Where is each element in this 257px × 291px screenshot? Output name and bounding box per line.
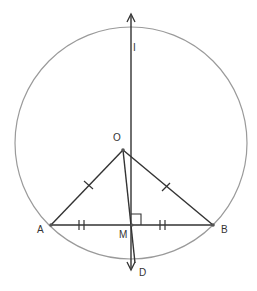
label-O: O: [113, 132, 121, 143]
label-D: D: [139, 267, 146, 278]
point-A: [49, 223, 53, 227]
label-M: M: [119, 229, 127, 240]
right-angle-marker: [131, 214, 141, 225]
label-B: B: [221, 224, 228, 235]
label-A: A: [37, 224, 44, 235]
point-M: [130, 223, 133, 226]
geometry-diagram: I O A B M D: [0, 0, 257, 291]
segment-OA: [51, 150, 123, 225]
point-B: [211, 223, 215, 227]
point-O: [121, 148, 125, 152]
segment-OD: [123, 150, 135, 263]
label-I: I: [133, 42, 136, 53]
